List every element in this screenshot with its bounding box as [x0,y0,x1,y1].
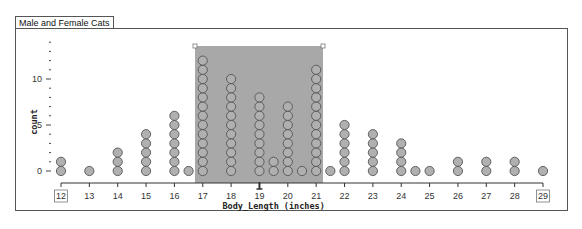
data-dot[interactable] [297,166,306,175]
data-dot[interactable] [85,166,94,175]
data-dot[interactable] [113,157,122,166]
data-dot[interactable] [312,65,321,74]
data-dot[interactable] [340,166,349,175]
data-dot[interactable] [170,148,179,157]
data-dot[interactable] [198,111,207,120]
data-dot[interactable] [170,157,179,166]
data-dot[interactable] [255,111,264,120]
data-dot[interactable] [340,120,349,129]
data-dot[interactable] [368,130,377,139]
data-dot[interactable] [482,166,491,175]
data-dot[interactable] [482,157,491,166]
data-dot[interactable] [198,139,207,148]
data-dot[interactable] [227,130,236,139]
data-dot[interactable] [283,166,292,175]
data-dot[interactable] [312,93,321,102]
data-dot[interactable] [198,65,207,74]
data-dot[interactable] [198,93,207,102]
data-dot[interactable] [312,130,321,139]
data-dot[interactable] [269,157,278,166]
data-dot[interactable] [198,74,207,83]
data-dot[interactable] [227,74,236,83]
data-dot[interactable] [198,130,207,139]
data-dot[interactable] [283,130,292,139]
data-dot[interactable] [312,157,321,166]
data-dot[interactable] [397,139,406,148]
data-dot[interactable] [198,102,207,111]
data-dot[interactable] [312,74,321,83]
data-dot[interactable] [170,139,179,148]
data-dot[interactable] [170,111,179,120]
data-dot[interactable] [198,166,207,175]
data-dot[interactable] [141,157,150,166]
data-dot[interactable] [312,111,321,120]
data-dot[interactable] [326,166,335,175]
data-dot[interactable] [255,157,264,166]
data-dot[interactable] [198,84,207,93]
data-dot[interactable] [255,102,264,111]
data-dot[interactable] [227,93,236,102]
data-dot[interactable] [198,56,207,65]
data-dot[interactable] [368,148,377,157]
data-dot[interactable] [283,157,292,166]
dot-plot[interactable]: 0510count1213141516171819202122232425262… [0,0,582,229]
data-dot[interactable] [340,157,349,166]
data-dot[interactable] [368,166,377,175]
data-dot[interactable] [340,130,349,139]
data-dot[interactable] [255,166,264,175]
data-dot[interactable] [510,157,519,166]
data-dot[interactable] [283,102,292,111]
data-dot[interactable] [227,139,236,148]
data-dot[interactable] [397,157,406,166]
data-dot[interactable] [255,130,264,139]
data-dot[interactable] [411,166,420,175]
data-dot[interactable] [170,120,179,129]
data-dot[interactable] [113,148,122,157]
data-dot[interactable] [312,166,321,175]
data-dot[interactable] [340,139,349,148]
data-dot[interactable] [113,166,122,175]
data-dot[interactable] [170,166,179,175]
data-dot[interactable] [141,148,150,157]
data-dot[interactable] [283,139,292,148]
data-dot[interactable] [368,139,377,148]
data-dot[interactable] [397,148,406,157]
data-dot[interactable] [198,120,207,129]
data-dot[interactable] [255,120,264,129]
data-dot[interactable] [283,148,292,157]
selection-handle-left[interactable] [193,44,197,48]
data-dot[interactable] [170,130,179,139]
data-dot[interactable] [141,139,150,148]
data-dot[interactable] [269,166,278,175]
data-dot[interactable] [283,111,292,120]
data-dot[interactable] [141,130,150,139]
data-dot[interactable] [141,166,150,175]
data-dot[interactable] [198,157,207,166]
data-dot[interactable] [312,102,321,111]
data-dot[interactable] [255,93,264,102]
data-dot[interactable] [56,157,65,166]
data-dot[interactable] [453,166,462,175]
data-dot[interactable] [255,148,264,157]
data-dot[interactable] [56,166,65,175]
data-dot[interactable] [453,157,462,166]
data-dot[interactable] [227,111,236,120]
data-dot[interactable] [312,148,321,157]
data-dot[interactable] [510,166,519,175]
selection-handle-right[interactable] [321,44,325,48]
data-dot[interactable] [227,166,236,175]
data-dot[interactable] [312,84,321,93]
data-dot[interactable] [198,148,207,157]
data-dot[interactable] [227,120,236,129]
data-dot[interactable] [368,157,377,166]
data-dot[interactable] [184,166,193,175]
data-dot[interactable] [397,166,406,175]
data-dot[interactable] [227,148,236,157]
data-dot[interactable] [312,139,321,148]
data-dot[interactable] [255,139,264,148]
data-dot[interactable] [312,120,321,129]
data-dot[interactable] [340,148,349,157]
data-dot[interactable] [227,157,236,166]
data-dot[interactable] [227,102,236,111]
data-dot[interactable] [283,120,292,129]
